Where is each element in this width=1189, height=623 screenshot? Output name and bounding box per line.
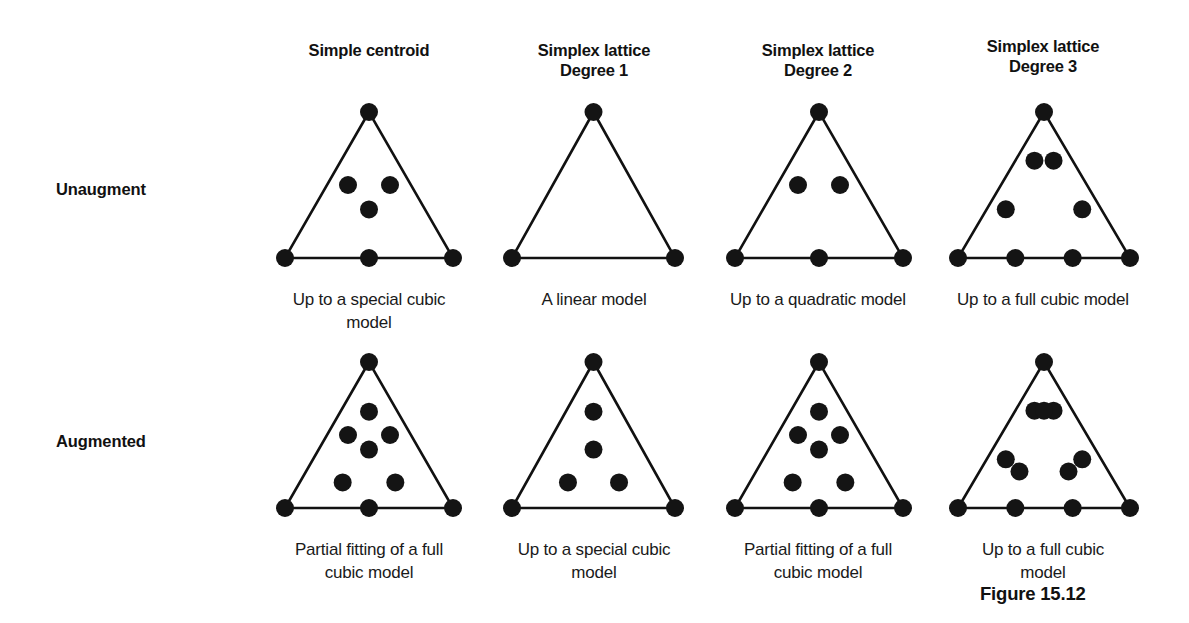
design-point-axial-interior [334,473,352,491]
simplex-panel-simplex-lattice-degree-3-unaugment [942,96,1146,274]
simplex-triangle-plot [496,96,691,274]
design-point-axial-interior [1060,463,1078,481]
column-header-simplex-lattice-degree-3: Simplex lattice Degree 3 [903,36,1183,76]
design-point-axial-interior [559,473,577,491]
design-point-edge-third [1064,249,1082,267]
design-point-axial-interior [1035,402,1053,420]
design-point-edge-midpoint [360,249,378,267]
design-point-vertex [444,499,462,517]
simplex-triangle-plot [269,346,469,524]
design-point-edge-third [1025,152,1043,170]
simplex-triangle-plot [942,346,1146,524]
design-point-vertex [276,249,294,267]
simplex-triangle-plot [719,346,919,524]
triangle-outline [735,362,903,508]
simplex-panel-simplex-lattice-degree-3-augmented [942,346,1146,524]
design-point-edge-midpoint [360,499,378,517]
design-point-centroid [360,441,378,459]
design-point-edge-midpoint [339,426,357,444]
panel-caption: Partial fitting of a full cubic model [711,538,926,584]
triangle-outline [285,362,453,508]
design-point-centroid [585,441,603,459]
panel-caption: Up to a special cubic model [262,288,477,334]
design-point-vertex [444,249,462,267]
triangle-outline [735,112,903,258]
row-label-augmented: Augmented [56,432,146,451]
design-point-vertex [1121,499,1139,517]
design-point-vertex [949,499,967,517]
design-point-edge-midpoint [831,426,849,444]
design-point-vertex [949,249,967,267]
design-point-vertex [585,353,603,371]
design-point-edge-midpoint [381,426,399,444]
design-point-axial-interior [360,403,378,421]
panel-caption: Up to a special cubic model [487,538,702,584]
triangle-outline [512,362,675,508]
design-point-vertex [1035,103,1053,121]
design-point-vertex [585,103,603,121]
design-point-edge-midpoint [339,176,357,194]
design-point-centroid [360,200,378,218]
design-point-edge-third [1006,499,1024,517]
simplex-panel-simplex-lattice-degree-1-augmented [496,346,691,524]
design-point-axial-interior [810,403,828,421]
simplex-triangle-plot [942,96,1146,274]
design-point-vertex [360,353,378,371]
design-point-vertex [810,103,828,121]
figure-number-label: Figure 15.12 [980,583,1086,605]
design-point-axial-interior [836,473,854,491]
design-point-vertex [1035,353,1053,371]
design-point-vertex [894,499,912,517]
design-point-axial-interior [585,403,603,421]
simplex-panel-simple-centroid-augmented [269,346,469,524]
design-point-vertex [360,103,378,121]
design-point-edge-midpoint [831,176,849,194]
design-point-edge-midpoint [810,499,828,517]
panel-caption: Partial fitting of a full cubic model [262,538,477,584]
design-point-vertex [1121,249,1139,267]
design-point-edge-third [1073,450,1091,468]
triangle-outline [958,112,1130,258]
design-point-vertex [666,499,684,517]
simplex-panel-simplex-lattice-degree-1-unaugment [496,96,691,274]
design-point-edge-third [1006,249,1024,267]
panel-caption: Up to a full cubic model [936,538,1151,584]
design-point-axial-interior [1010,463,1028,481]
design-point-vertex [666,249,684,267]
panel-caption: Up to a quadratic model [711,288,926,311]
design-point-edge-third [1073,200,1091,218]
design-point-edge-midpoint [810,249,828,267]
panel-caption: Up to a full cubic model [936,288,1151,311]
simplex-panel-simplex-lattice-degree-2-augmented [719,346,919,524]
design-point-vertex [726,499,744,517]
design-point-vertex [503,249,521,267]
design-point-edge-midpoint [789,426,807,444]
design-point-edge-midpoint [789,176,807,194]
simplex-panel-simplex-lattice-degree-2-unaugment [719,96,919,274]
design-point-axial-interior [386,473,404,491]
design-point-axial-interior [784,473,802,491]
panel-caption: A linear model [487,288,702,311]
design-point-vertex [894,249,912,267]
design-point-edge-midpoint [381,176,399,194]
row-label-unaugmented: Unaugment [56,180,146,199]
triangle-outline [285,112,453,258]
simplex-panel-simple-centroid-unaugment [269,96,469,274]
design-point-edge-third [1045,152,1063,170]
design-point-axial-interior [610,473,628,491]
design-point-edge-third [997,200,1015,218]
design-point-vertex [503,499,521,517]
design-point-edge-third [1064,499,1082,517]
simplex-triangle-plot [269,96,469,274]
design-point-centroid [810,441,828,459]
design-point-vertex [276,499,294,517]
triangle-outline [512,112,675,258]
design-point-vertex [810,353,828,371]
simplex-triangle-plot [496,346,691,524]
simplex-triangle-plot [719,96,919,274]
design-point-edge-third [997,450,1015,468]
design-point-vertex [726,249,744,267]
triangle-outline [958,362,1130,508]
figure-root: Simple centroidSimplex lattice Degree 1S… [0,0,1189,623]
